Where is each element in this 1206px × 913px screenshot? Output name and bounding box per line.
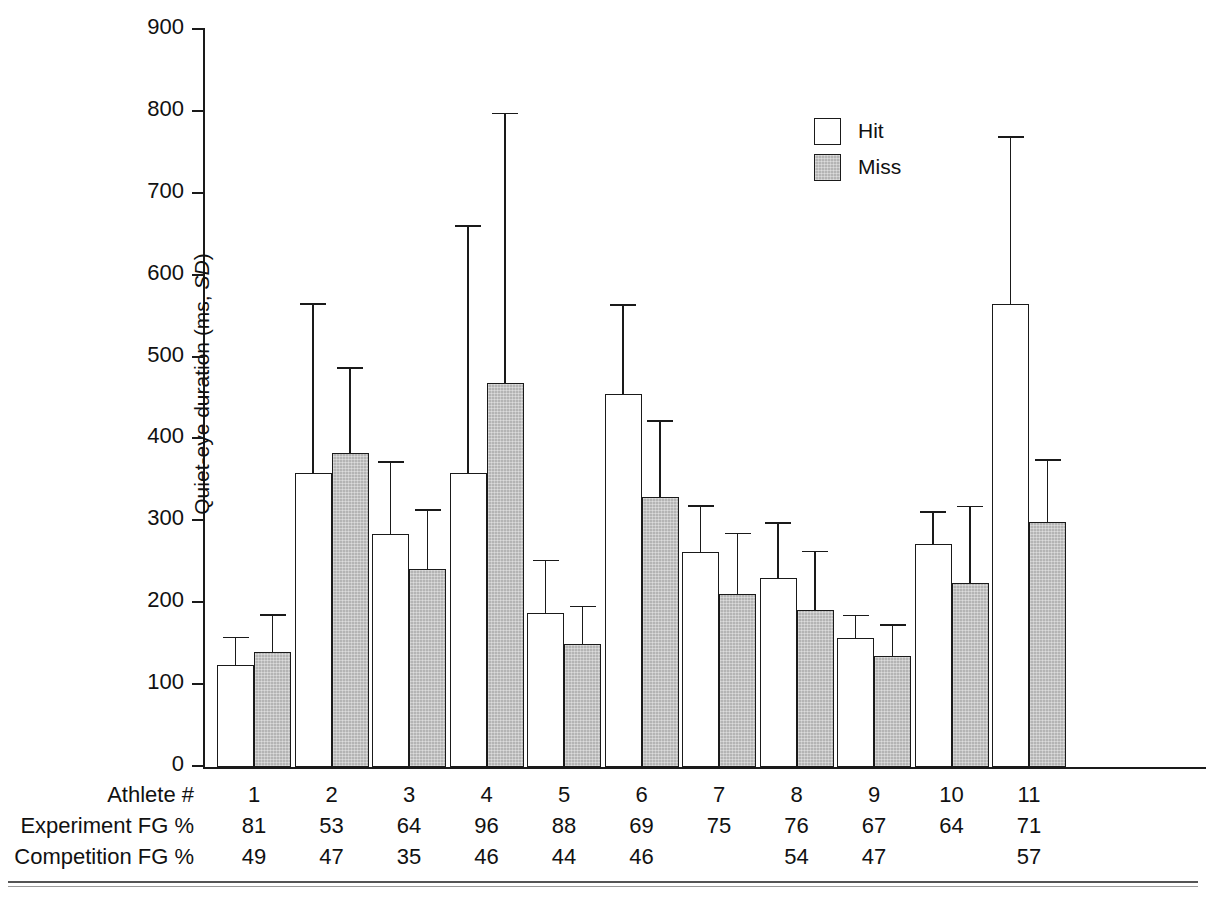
footer-rule-secondary xyxy=(8,886,1198,887)
error-bar-line xyxy=(659,422,661,497)
bar-hit-athlete-10 xyxy=(915,544,952,767)
table-cell: 69 xyxy=(629,810,653,841)
error-bar-line xyxy=(700,507,702,553)
error-bar-cap xyxy=(337,367,363,369)
error-bar-line xyxy=(349,369,351,453)
error-bar-cap xyxy=(843,615,869,617)
table-row-label: Athlete # xyxy=(107,779,194,810)
y-axis-tick-label: 300 xyxy=(114,507,184,529)
table-cell: 53 xyxy=(319,810,343,841)
bar-hit-athlete-5 xyxy=(527,613,564,767)
table-cell: 10 xyxy=(939,779,963,810)
y-axis-tick: 0 xyxy=(192,765,203,767)
error-bar-line xyxy=(272,616,274,652)
table-cell: 75 xyxy=(707,810,731,841)
error-bar-line xyxy=(427,511,429,569)
table-cell: 1 xyxy=(248,779,260,810)
table-cell: 46 xyxy=(629,841,653,872)
y-axis-tick-label: 0 xyxy=(114,753,184,775)
table-cell: 67 xyxy=(862,810,886,841)
y-axis-tick: 200 xyxy=(192,601,203,603)
error-bar-line xyxy=(235,638,237,664)
error-bar-cap xyxy=(765,522,791,524)
y-axis-tick-label: 100 xyxy=(114,671,184,693)
y-axis-tick: 700 xyxy=(192,192,203,194)
table-cell: 35 xyxy=(397,841,421,872)
error-bar-line xyxy=(390,463,392,534)
bar-hit-athlete-8 xyxy=(760,578,797,767)
error-bar-cap xyxy=(920,511,946,513)
bar-miss-athlete-8 xyxy=(797,610,834,767)
y-axis-tick-label: 400 xyxy=(114,425,184,447)
table-cell: 44 xyxy=(552,841,576,872)
error-bar-line xyxy=(467,227,469,473)
y-axis-tick: 500 xyxy=(192,356,203,358)
error-bar-line xyxy=(1010,138,1012,304)
table-row: Competition FG %494735464446544757 xyxy=(0,841,1206,872)
error-bar-line xyxy=(892,626,894,656)
error-bar-line xyxy=(504,114,506,383)
table-cell: 3 xyxy=(403,779,415,810)
bar-hit-athlete-1 xyxy=(217,665,254,767)
error-bar-line xyxy=(1047,461,1049,522)
bar-miss-athlete-5 xyxy=(564,644,601,767)
table-cell: 7 xyxy=(713,779,725,810)
bar-hit-athlete-4 xyxy=(450,473,487,767)
error-bar-line xyxy=(932,513,934,544)
error-bar-line xyxy=(622,306,624,394)
bar-miss-athlete-7 xyxy=(719,594,756,767)
y-axis-tick: 600 xyxy=(192,274,203,276)
bar-miss-athlete-11 xyxy=(1029,522,1066,767)
error-bar-cap xyxy=(492,113,518,115)
table-cell: 6 xyxy=(635,779,647,810)
table-cell: 49 xyxy=(242,841,266,872)
error-bar-cap xyxy=(260,614,286,616)
y-axis-tick: 300 xyxy=(192,519,203,521)
bar-hit-athlete-3 xyxy=(372,534,409,767)
error-bar-line xyxy=(777,524,779,578)
error-bar-cap xyxy=(378,461,404,463)
bar-miss-athlete-9 xyxy=(874,656,911,767)
y-axis-tick-label: 200 xyxy=(114,589,184,611)
legend-label-miss: Miss xyxy=(858,155,901,179)
error-bar-cap xyxy=(802,551,828,553)
bar-miss-athlete-6 xyxy=(642,497,679,767)
error-bar-line xyxy=(814,552,816,609)
table-cell: 47 xyxy=(862,841,886,872)
bar-miss-athlete-4 xyxy=(487,383,524,767)
y-axis-tick-label: 700 xyxy=(114,180,184,202)
y-axis-title: Quiet-eye duration (ms, SD) xyxy=(190,253,214,514)
y-axis-tick: 900 xyxy=(192,28,203,30)
table-row: Experiment FG %8153649688697576676471 xyxy=(0,810,1206,841)
bar-hit-athlete-6 xyxy=(605,394,642,767)
error-bar-cap xyxy=(688,505,714,507)
error-bar-cap xyxy=(455,225,481,227)
table-cell: 64 xyxy=(939,810,963,841)
error-bar-cap xyxy=(998,136,1024,138)
table-cell: 64 xyxy=(397,810,421,841)
error-bar-cap xyxy=(880,624,906,626)
plot-area: Quiet-eye duration (ms, SD) 010020030040… xyxy=(203,30,1206,767)
error-bar-line xyxy=(855,616,857,637)
x-axis-line xyxy=(203,767,1206,769)
legend-item-hit: Hit xyxy=(814,113,901,149)
y-axis-tick-label: 500 xyxy=(114,344,184,366)
table-cell: 47 xyxy=(319,841,343,872)
y-axis-tick-label: 600 xyxy=(114,262,184,284)
error-bar-line xyxy=(737,534,739,594)
bar-hit-athlete-11 xyxy=(992,304,1029,767)
table-row: Athlete #1234567891011 xyxy=(0,779,1206,810)
y-axis-tick: 100 xyxy=(192,683,203,685)
error-bar-line xyxy=(582,607,584,644)
error-bar-cap xyxy=(223,637,249,639)
legend-label-hit: Hit xyxy=(858,119,884,143)
bar-hit-athlete-2 xyxy=(295,473,332,767)
legend-swatch-hit xyxy=(814,118,841,145)
legend-swatch-miss xyxy=(814,154,841,181)
error-bar-cap xyxy=(1035,459,1061,461)
table-cell: 57 xyxy=(1017,841,1041,872)
y-axis-tick: 800 xyxy=(192,110,203,112)
bar-miss-athlete-2 xyxy=(332,453,369,767)
table-cell: 46 xyxy=(474,841,498,872)
error-bar-cap xyxy=(300,303,326,305)
